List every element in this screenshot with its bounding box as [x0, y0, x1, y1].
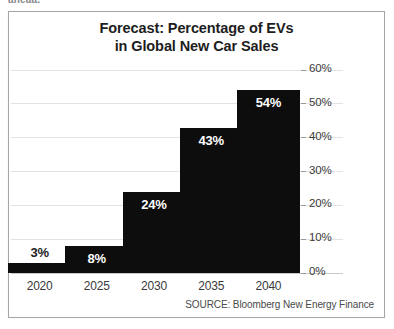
bar-2020[interactable] [8, 263, 71, 273]
y-tick-mark [301, 171, 306, 172]
y-axis-tick-label: 50% [309, 96, 331, 108]
chart-figure: Forecast: Percentage of EVs in Global Ne… [8, 11, 385, 318]
y-axis-tick-label: 60% [309, 62, 331, 74]
bar-value-label-2040: 54% [237, 95, 300, 110]
y-axis-tick-label: 10% [309, 231, 331, 243]
chart-title: Forecast: Percentage of EVs in Global Ne… [9, 19, 384, 55]
y-axis-tick-label: 40% [309, 130, 331, 142]
x-axis-tick-label-2035: 2035 [180, 279, 243, 293]
bar-value-label-2025: 8% [65, 251, 128, 266]
x-axis-tick-label-2040: 2040 [237, 279, 300, 293]
y-tick-mark [301, 273, 306, 274]
y-tick-mark [301, 239, 306, 240]
x-axis-tick-label-2025: 2025 [65, 279, 128, 293]
y-tick-mark [301, 137, 306, 138]
y-tick-mark [301, 205, 306, 206]
chart-title-line-1: Forecast: Percentage of EVs [9, 19, 384, 37]
x-axis-tick-label-2030: 2030 [123, 279, 186, 293]
gridline-60pct [11, 70, 343, 71]
y-axis-tick-label: 20% [309, 197, 331, 209]
bar-2035[interactable]: 43% [180, 128, 243, 273]
y-tick-mark [301, 70, 306, 71]
source-note: SOURCE: Bloomberg New Energy Finance [185, 299, 374, 310]
bar-value-label-2035: 43% [180, 133, 243, 148]
y-axis-tick-label: 30% [309, 164, 331, 176]
x-axis-tick-label-2020: 2020 [8, 279, 71, 293]
bar-value-label-2020: 3% [8, 245, 71, 260]
bar-2025[interactable]: 8% [65, 246, 128, 273]
bar-2030[interactable]: 24% [123, 192, 186, 273]
plot-area: 0%10%20%30%40%50%60%3%20208%202524%20304… [11, 70, 343, 273]
y-axis-tick-label: 0% [309, 265, 325, 277]
clipped-header-text: aheaa. [8, 0, 40, 5]
bar-2040[interactable]: 54% [237, 90, 300, 273]
bar-value-label-2030: 24% [123, 197, 186, 212]
y-tick-mark [301, 103, 306, 104]
chart-title-line-2: in Global New Car Sales [9, 37, 384, 55]
